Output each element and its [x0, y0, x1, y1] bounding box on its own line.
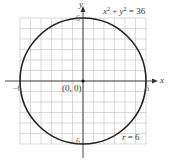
x-axis-label: x — [160, 76, 164, 85]
equation-label: x2 + y2 = 36 — [103, 7, 145, 16]
tick-x-6: 6 — [145, 85, 149, 93]
tick-y-neg6: 6 — [76, 138, 80, 146]
tick-x-neg6: −6 — [13, 85, 22, 93]
tick-y-6: 6 — [76, 15, 80, 23]
origin-point — [81, 79, 84, 82]
y-axis-label: y — [79, 0, 83, 9]
x-axis-arrow-icon — [152, 79, 158, 84]
circle-graph — [0, 0, 171, 161]
origin-label: (0, 0) — [62, 84, 82, 93]
radius-label: r = 6 — [122, 133, 140, 142]
